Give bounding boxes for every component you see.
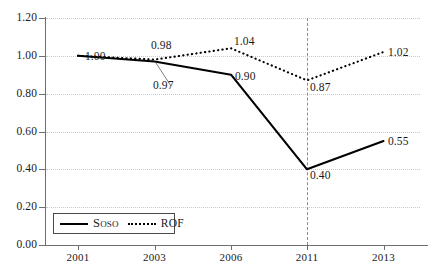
y-tick-mark-0.80 <box>39 94 46 95</box>
x-tick-mark-2001 <box>78 245 79 250</box>
legend-swatch-dotted-icon <box>128 223 156 225</box>
value-label-rof-2011: 0.87 <box>310 82 331 94</box>
x-tick-mark-2013 <box>384 245 385 250</box>
x-tick-mark-2011 <box>307 245 308 250</box>
value-label-rof-2003: 0.98 <box>151 40 172 52</box>
legend: Soso ROF <box>53 213 175 234</box>
value-label-soso-2001: 1.00 <box>85 51 106 63</box>
y-tick-mark-0.60 <box>39 132 46 133</box>
y-tick-mark-0.00 <box>39 245 46 246</box>
x-tick-label-2003: 2003 <box>143 252 166 263</box>
y-tick-mark-1.20 <box>39 18 46 19</box>
x-axis <box>45 245 428 246</box>
gridline-0.60 <box>46 132 420 133</box>
legend-item-rof: ROF <box>128 214 184 233</box>
y-tick-label-0.00: 0.00 <box>16 239 37 251</box>
gridline-0.80 <box>46 94 420 95</box>
legend-label-rof: ROF <box>161 218 184 230</box>
y-tick-label-1.20: 1.20 <box>16 12 37 24</box>
reference-line-2011 <box>307 18 308 245</box>
line-chart: 1.20 1.00 0.80 0.60 0.40 0.20 0.00 2001 … <box>0 0 433 279</box>
y-tick-label-0.20: 0.20 <box>16 201 37 213</box>
gridline-1.20 <box>46 18 420 19</box>
x-tick-mark-2006 <box>231 245 232 250</box>
legend-label-soso: Soso <box>93 218 119 230</box>
y-tick-label-0.80: 0.80 <box>16 88 37 100</box>
value-label-rof-2006: 1.04 <box>234 36 255 48</box>
y-tick-label-1.00: 1.00 <box>16 50 37 62</box>
x-tick-label-2013: 2013 <box>372 252 395 263</box>
value-label-rof-2013: 1.02 <box>388 47 409 59</box>
x-tick-mark-2003 <box>155 245 156 250</box>
x-tick-label-2001: 2001 <box>67 252 90 263</box>
gridline-0.20 <box>46 207 420 208</box>
value-label-soso-2013: 0.55 <box>388 136 409 148</box>
x-tick-label-2011: 2011 <box>296 252 318 263</box>
value-label-soso-2011: 0.40 <box>310 170 331 182</box>
y-tick-mark-0.40 <box>39 169 46 170</box>
value-label-soso-2006: 0.90 <box>235 71 256 83</box>
gridline-0.40 <box>46 169 420 170</box>
x-tick-label-2006: 2006 <box>220 252 243 263</box>
y-tick-label-0.40: 0.40 <box>16 163 37 175</box>
y-tick-label-0.60: 0.60 <box>16 126 37 138</box>
y-tick-mark-0.20 <box>39 207 46 208</box>
legend-item-soso: Soso <box>60 214 119 233</box>
value-label-soso-2003: 0.97 <box>153 80 174 92</box>
legend-swatch-solid-icon <box>60 223 88 225</box>
y-tick-mark-1.00 <box>39 56 46 57</box>
